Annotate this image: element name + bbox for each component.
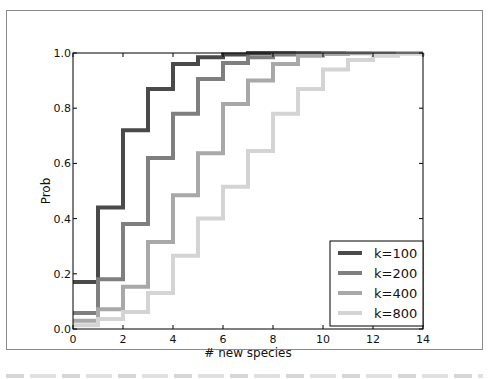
y-tick-label: 1.0 — [54, 47, 72, 60]
x-axis-title: # new species — [204, 346, 291, 360]
legend-label: k=800 — [374, 306, 417, 321]
legend-label: k=100 — [374, 246, 417, 261]
legend: k=100k=200k=400k=800 — [330, 241, 423, 326]
y-tick-label: 0.4 — [54, 213, 72, 226]
x-tick-label: 6 — [220, 333, 227, 346]
y-tick-label: 0.6 — [54, 157, 72, 170]
x-tick-labels: 02468101214 — [70, 333, 431, 346]
y-tick-label: 0.2 — [54, 268, 72, 281]
y-tick-label: 0.8 — [54, 102, 72, 115]
legend-label: k=200 — [374, 266, 417, 281]
cdf-step-chart: 02468101214 0.00.20.40.60.81.0 # new spe… — [0, 0, 490, 379]
x-tick-label: 8 — [270, 333, 277, 346]
x-tick-label: 12 — [366, 333, 380, 346]
clipped-caption-text — [6, 364, 483, 379]
x-tick-label: 2 — [120, 333, 127, 346]
x-tick-label: 10 — [316, 333, 330, 346]
y-tick-label: 0.0 — [54, 323, 72, 336]
legend-label: k=400 — [374, 286, 417, 301]
x-tick-label: 4 — [170, 333, 177, 346]
x-tick-label: 14 — [416, 333, 430, 346]
y-axis-title: Prob — [39, 178, 53, 205]
y-tick-labels: 0.00.20.40.60.81.0 — [54, 47, 72, 336]
